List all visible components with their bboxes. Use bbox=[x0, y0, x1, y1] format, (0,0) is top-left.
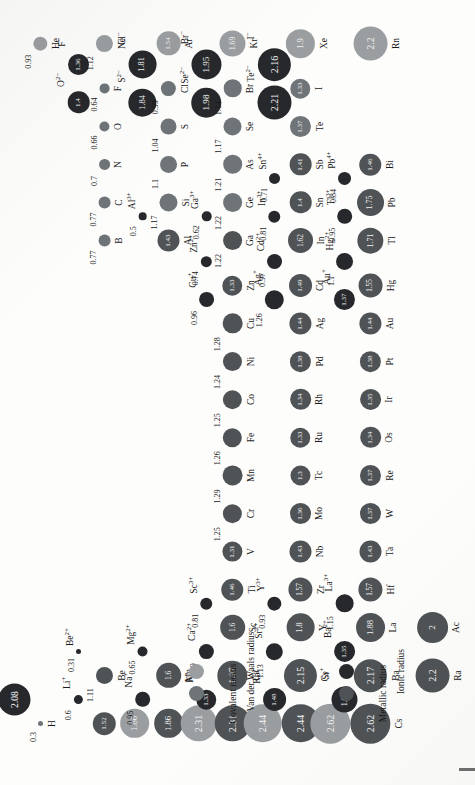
element-label-sc3+: Sc3+ bbox=[187, 576, 199, 593]
element-label-s2-: S2− bbox=[115, 69, 127, 82]
radius-bubble-al3+ bbox=[138, 212, 146, 220]
element-label-rh: Rh bbox=[315, 393, 325, 404]
element-label-sb: Sb bbox=[315, 159, 325, 169]
radius-value-h-: 2.08 bbox=[9, 691, 19, 708]
radius-bubble-be2+ bbox=[76, 649, 81, 654]
radius-value-sc: 1.6 bbox=[228, 622, 235, 631]
radius-value-as: 1.21 bbox=[214, 177, 222, 191]
radius-bubble-se bbox=[223, 117, 241, 135]
radius-value-nb: 1.43 bbox=[297, 545, 304, 557]
radius-value-pt: 1.38 bbox=[367, 355, 374, 367]
element-label-cl-: Cl− bbox=[115, 32, 127, 45]
radius-value-al3+: 0.5 bbox=[129, 226, 137, 236]
radius-value-ag: 1.44 bbox=[297, 317, 304, 329]
element-label-bi: Bi bbox=[385, 160, 395, 169]
legend-swatch-ionic bbox=[339, 664, 354, 679]
radius-value-ru: 1.33 bbox=[297, 431, 304, 443]
element-label-y3+: Y3+ bbox=[254, 577, 266, 591]
element-label-ir: Ir bbox=[385, 396, 395, 402]
element-label-se: Se bbox=[245, 121, 255, 131]
radius-value-au: 1.44 bbox=[367, 317, 374, 329]
radius-value-sc3+: 0.81 bbox=[191, 613, 199, 627]
element-label-f-: F− bbox=[55, 37, 67, 46]
element-label-v: V bbox=[246, 548, 256, 555]
radius-value-sn4+: 0.71 bbox=[260, 187, 268, 201]
radius-bubble-mg2+ bbox=[137, 646, 147, 656]
element-label-fe: Fe bbox=[246, 432, 256, 442]
element-label-s: S bbox=[180, 123, 190, 128]
radius-value-be: 1.11 bbox=[86, 688, 94, 702]
radius-bubble-in3+ bbox=[268, 210, 280, 222]
radius-value-o: 0.66 bbox=[90, 135, 98, 149]
legend-swatch-vanderwaals bbox=[189, 664, 204, 679]
radius-bubble-hg2+ bbox=[336, 253, 353, 270]
radius-value-zr: 1.57 bbox=[296, 583, 303, 596]
radius-bubble-be bbox=[95, 666, 112, 683]
radius-bubble-tl3+ bbox=[337, 209, 352, 224]
legend-swatch-metallic bbox=[339, 686, 354, 701]
element-label-ga3+: Ga3+ bbox=[188, 190, 200, 209]
radius-bubble-sn4+ bbox=[269, 173, 280, 184]
periodic-radii-chart: 0.3H2.08H−0.93He1.52Li0.6Li+1.861.11Be0.… bbox=[0, 0, 475, 785]
page-edge-mark bbox=[459, 768, 475, 771]
radius-value-cd: 1.49 bbox=[297, 279, 304, 291]
radius-value-se: 1.17 bbox=[214, 139, 222, 153]
element-label-cs: Cs bbox=[394, 718, 404, 728]
radius-bubble-n bbox=[99, 159, 110, 170]
radius-bubble-sr2+ bbox=[265, 642, 282, 659]
radius-bubble-as bbox=[223, 155, 242, 174]
radius-bubble-ga3+ bbox=[201, 211, 211, 221]
radius-value-mg2+: 0.65 bbox=[128, 660, 136, 674]
element-label-xe: Xe bbox=[319, 37, 329, 48]
radius-bubble-cd2+ bbox=[267, 254, 282, 269]
radius-bubble-br bbox=[223, 79, 241, 97]
radius-value-h: 0.3 bbox=[29, 732, 37, 742]
legend-label-covalent: Covalent radius bbox=[227, 663, 237, 723]
element-label-w: W bbox=[385, 509, 395, 518]
radius-value-be2+: 0.31 bbox=[67, 658, 75, 672]
radius-value-n: 0.7 bbox=[90, 175, 98, 185]
element-label-co: Co bbox=[246, 393, 256, 404]
radius-value-mo: 1.36 bbox=[297, 507, 304, 519]
element-label-cr: Cr bbox=[246, 508, 256, 518]
legend-swatch-covalent bbox=[189, 686, 204, 701]
radius-value-cu+: 0.96 bbox=[190, 310, 198, 324]
element-label-rn: Rn bbox=[391, 37, 401, 48]
radius-value-in: 1.62 bbox=[296, 233, 303, 246]
radius-value-ba: 2.17 bbox=[365, 666, 375, 684]
radius-bubble-y3+ bbox=[267, 596, 281, 610]
radius-value-la: 1.88 bbox=[366, 619, 375, 634]
radius-value-rn: 2.2 bbox=[365, 37, 375, 50]
element-label-hg: Hg bbox=[386, 279, 396, 291]
radius-value-tc: 1.3 bbox=[297, 471, 304, 480]
radius-value-pd: 1.38 bbox=[297, 355, 304, 367]
element-label-ra: Ra bbox=[453, 670, 463, 681]
radius-value-p: 1.1 bbox=[151, 178, 159, 188]
radius-value-cu: 1.28 bbox=[213, 337, 221, 351]
radius-bubble-s bbox=[160, 118, 176, 134]
radius-value-ar: 1.54 bbox=[164, 37, 171, 49]
element-label-sn: Sn bbox=[315, 197, 325, 207]
radius-value-sb: 1.41 bbox=[297, 158, 304, 170]
element-label-te2-: Te2− bbox=[244, 65, 256, 82]
radius-value-hg2+: 1.1 bbox=[327, 275, 335, 285]
radius-bubble-pb4+ bbox=[338, 172, 351, 185]
radius-value-te2-: 2.21 bbox=[269, 93, 279, 111]
radius-value-s: 1.04 bbox=[151, 138, 159, 152]
radius-value-cr: 1.25 bbox=[213, 527, 221, 541]
radius-value-w: 1.37 bbox=[367, 507, 374, 519]
radius-value-rb-vdw: 2.62 bbox=[325, 714, 335, 732]
radius-bubble-mn bbox=[222, 465, 242, 485]
radius-value-ta: 1.43 bbox=[367, 545, 374, 557]
radius-bubble-cu bbox=[222, 313, 242, 333]
element-label-f: F bbox=[113, 85, 123, 90]
element-label-tl: Tl bbox=[387, 236, 397, 244]
radius-value-al: 1.43 bbox=[165, 234, 172, 246]
radius-value-cl-: 1.81 bbox=[138, 57, 146, 72]
element-label-pb4+: Pb4+ bbox=[325, 151, 337, 169]
radius-value-li: 1.52 bbox=[100, 717, 107, 729]
element-label-i-: I− bbox=[245, 32, 257, 39]
radius-value-o2-: 1.4 bbox=[75, 98, 82, 107]
radius-bubble-h bbox=[38, 721, 43, 726]
radius-value-v: 1.31 bbox=[229, 545, 236, 557]
